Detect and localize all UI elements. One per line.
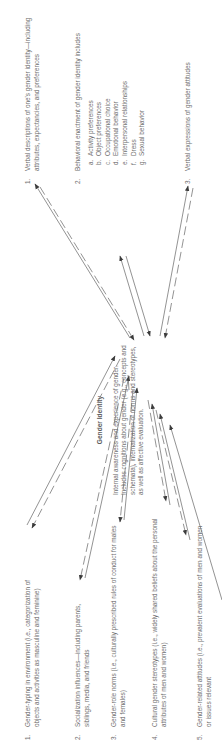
center-title: Gender Identity <box>96 345 105 495</box>
input-item-2: 2. Socialization influences—including pa… <box>74 580 91 740</box>
subitem-letter: d. <box>112 156 121 165</box>
output-number: 3. <box>184 171 193 184</box>
output-text: Verbal expressions of gender attitudes <box>184 6 193 171</box>
arrow-output-2-to-center <box>126 256 150 336</box>
output-subitems: a.Activity preferences b.Object preferen… <box>87 6 147 184</box>
subitem-text: Emotional behavior <box>112 101 121 156</box>
subitem-text: Object preferences <box>95 102 104 156</box>
subitem-g: g.Sexual behavior <box>138 6 147 171</box>
subitem-text: Occupational choice <box>104 98 113 156</box>
subitem-a: a.Activity preferences <box>87 6 96 171</box>
subitem-letter: f. <box>130 156 139 165</box>
input-number: 2. <box>74 727 91 740</box>
arrow-center-to-output-1 <box>35 184 130 338</box>
output-item-2: 2. Behavioral enactment of gender identi… <box>74 6 147 184</box>
subitem-letter: a. <box>87 156 96 165</box>
input-number: 1. <box>24 727 41 740</box>
subitem-letter: g. <box>138 156 147 165</box>
subitem-b: b.Object preferences <box>95 6 104 171</box>
subitem-d: d.Emotional behavior <box>112 6 121 171</box>
input-item-5: 5. Gender-related attitudes (i.e., preva… <box>196 525 213 740</box>
output-text: Behavioral enactment of gender identity … <box>74 6 83 171</box>
arrow-center-to-output-3 <box>160 186 188 336</box>
output-text: Verbal descriptions of one's gender iden… <box>24 6 41 171</box>
diagram-page: 1. Gender-typing in environment (i.e., c… <box>0 0 222 750</box>
output-number: 2. <box>74 171 83 184</box>
input-number: 4. <box>151 727 168 740</box>
output-number: 1. <box>24 171 41 184</box>
input-item-4: 4. Cultural gender stereotypes (i.e., wi… <box>151 500 168 740</box>
arrow-output-3-to-center <box>165 188 193 338</box>
subitem-letter: c. <box>104 156 113 165</box>
subitem-text: Activity preferences <box>87 100 96 156</box>
subitem-letter: b. <box>95 156 104 165</box>
subitem-text: Dress <box>130 139 139 156</box>
input-text: Gender-typing in environment (i.e., cate… <box>24 570 41 727</box>
input-item-3: 3. Gender-role norms (i.e., culturally p… <box>110 520 127 740</box>
subitem-f: f.Dress <box>130 6 139 171</box>
input-text: Cultural gender stereotypes (i.e., widel… <box>151 500 168 727</box>
center-text: Internal awareness and experience of gen… <box>112 345 146 495</box>
arrow-center-to-output-2 <box>120 256 144 336</box>
input-number: 5. <box>196 727 213 740</box>
subitem-e: e.Interpersonal relationships <box>121 6 130 171</box>
subitem-letter: e. <box>121 156 130 165</box>
output-item-3: 3. Verbal expressions of gender attitude… <box>184 6 193 184</box>
subitem-c: c.Occupational choice <box>104 6 113 171</box>
input-text: Socialization influences—including paren… <box>74 580 91 727</box>
input-text: Gender-related attitudes (i.e., prevalen… <box>196 525 213 727</box>
output-item-1: 1. Verbal descriptions of one's gender i… <box>24 6 41 184</box>
input-item-1: 1. Gender-typing in environment (i.e., c… <box>24 570 41 740</box>
input-text: Gender-role norms (i.e., culturally pres… <box>110 520 127 727</box>
input-number: 3. <box>110 727 127 740</box>
subitem-text: Interpersonal relationships <box>121 81 130 156</box>
arrow-output-1-to-center <box>40 187 134 340</box>
center-gender-identity: Gender Identity Internal awareness and e… <box>96 345 146 495</box>
subitem-text: Sexual behavior <box>138 110 147 156</box>
